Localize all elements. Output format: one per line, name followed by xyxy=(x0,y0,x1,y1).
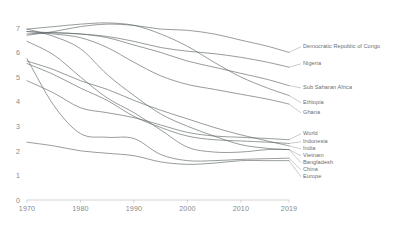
series-label-sub-saharan-africa: Sub Saharan Africa xyxy=(303,85,352,91)
leader-line-bangladesh xyxy=(289,150,301,163)
x-tick-label-1970: 1970 xyxy=(7,204,47,213)
x-axis-ticks xyxy=(27,200,289,203)
data-line-sub-saharan-africa xyxy=(27,33,289,86)
series-label-world: World xyxy=(303,131,318,137)
data-line-democratic-republic-of-congo xyxy=(27,24,289,52)
leader-line-nigeria xyxy=(289,64,301,67)
series-label-ghana: Ghana xyxy=(303,110,320,116)
data-lines-group xyxy=(27,23,289,164)
x-tick-label-1980: 1980 xyxy=(60,204,100,213)
data-line-nigeria xyxy=(27,32,289,68)
y-tick-label-7: 7 xyxy=(6,24,20,33)
series-label-china: China xyxy=(303,167,318,173)
data-line-ethiopia xyxy=(27,23,289,96)
leader-line-world xyxy=(289,134,301,140)
leader-line-ethiopia xyxy=(289,96,301,103)
y-tick-label-4: 4 xyxy=(6,97,20,106)
leader-line-china xyxy=(289,158,301,170)
data-line-india xyxy=(27,61,289,146)
leader-line-europe xyxy=(289,161,301,177)
series-label-vietnam: Vietnam xyxy=(303,153,324,159)
x-tick-label-2010: 2010 xyxy=(221,204,261,213)
leader-line-vietnam xyxy=(289,150,301,156)
fertility-rate-line-chart: 76543210 197019801990200020102019 Democr… xyxy=(0,0,397,236)
series-label-india: India xyxy=(303,146,315,152)
y-tick-label-6: 6 xyxy=(6,48,20,57)
data-line-world xyxy=(27,81,289,140)
series-label-bangladesh: Bangladesh xyxy=(303,160,333,166)
series-label-ethiopia: Ethiopia xyxy=(303,100,324,106)
leader-line-indonesia xyxy=(289,142,301,144)
data-line-vietnam xyxy=(27,41,289,152)
x-tick-label-2019: 2019 xyxy=(269,204,309,213)
leader-line-ghana xyxy=(289,104,301,113)
series-label-europe: Europe xyxy=(303,174,321,180)
leader-line-democratic-republic-of-congo xyxy=(289,47,301,53)
x-tick-label-1990: 1990 xyxy=(114,204,154,213)
series-label-democratic-republic-of-congo: Democratic Republic of Congo xyxy=(303,44,380,50)
label-leader-lines xyxy=(289,47,301,177)
y-tick-label-2: 2 xyxy=(6,147,20,156)
plot-area xyxy=(0,0,397,236)
y-tick-label-1: 1 xyxy=(6,171,20,180)
series-label-indonesia: Indonesia xyxy=(303,139,328,145)
series-label-nigeria: Nigeria xyxy=(303,61,321,67)
leader-line-india xyxy=(289,146,301,149)
x-tick-label-2000: 2000 xyxy=(167,204,207,213)
y-tick-label-3: 3 xyxy=(6,122,20,131)
y-tick-label-5: 5 xyxy=(6,73,20,82)
data-line-china xyxy=(27,59,289,162)
leader-line-sub-saharan-africa xyxy=(289,86,301,88)
